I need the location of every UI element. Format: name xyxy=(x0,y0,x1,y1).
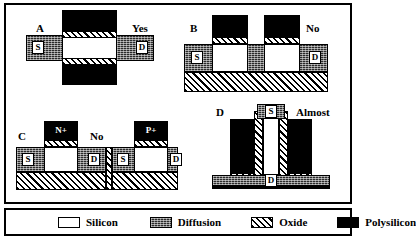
panel-d-polysilicon-right xyxy=(288,119,312,179)
panel-c-letter: C xyxy=(18,131,26,142)
panel-b-diffusion-row xyxy=(184,44,328,72)
panel-d: S D D Almost xyxy=(178,103,354,202)
legend-row: Silicon Diffusion Oxide Polysilicon xyxy=(6,210,350,234)
legend-item-silicon: Silicon xyxy=(58,217,118,228)
legend-frame: Silicon Diffusion Oxide Polysilicon xyxy=(4,208,352,236)
panel-a-letter: A xyxy=(36,23,44,34)
panel-c-gate-oxide-p xyxy=(134,140,168,147)
panel-a-drain-terminal: D xyxy=(136,41,148,54)
panel-c: N+ S D P+ S D C No xyxy=(6,103,178,202)
panel-d-drain-terminal: D xyxy=(265,174,277,187)
panel-b-polysilicon-gate-right xyxy=(264,15,300,37)
panel-b-gate-oxide-right xyxy=(264,37,300,44)
panel-b-letter: B xyxy=(190,23,197,34)
panel-c-silicon-channel-n xyxy=(44,147,78,172)
panel-b-drain-terminal: D xyxy=(309,51,321,64)
panel-c-implant-label-p: P+ xyxy=(134,121,168,140)
panel-d-oxide-sidewall-right xyxy=(279,111,288,183)
legend-label-silicon: Silicon xyxy=(86,217,118,228)
panel-c-source-terminal-n: S xyxy=(22,153,34,166)
panel-b-source-terminal: S xyxy=(191,51,203,64)
panel-b-silicon-channel-right xyxy=(264,44,300,72)
panel-c-silicon-channel-p xyxy=(134,147,168,172)
panel-d-source-terminal: S xyxy=(265,105,277,118)
panel-a-silicon-channel xyxy=(62,37,117,59)
panel-c-source-terminal-p: S xyxy=(117,153,129,166)
panel-b-polysilicon-gate-left xyxy=(212,15,248,37)
panel-a-oxide-bottom xyxy=(62,58,117,65)
panel-d-silicon-channel xyxy=(263,111,279,175)
panel-d-drain-outer-label: D xyxy=(216,107,224,118)
legend-item-oxide: Oxide xyxy=(251,217,307,228)
panel-a: S D A Yes xyxy=(6,5,178,103)
legend-item-polysilicon: Polysilicon xyxy=(337,217,416,228)
panel-b: S D B No xyxy=(178,5,354,103)
panel-c-implant-label-n: N+ xyxy=(44,121,78,140)
panel-d-oxide-sidewall-left xyxy=(254,111,263,183)
panel-d-polysilicon-left xyxy=(230,119,254,179)
silicon-swatch-icon xyxy=(58,217,80,228)
legend-label-oxide: Oxide xyxy=(279,217,307,228)
diffusion-swatch-icon xyxy=(150,217,172,228)
panel-b-substrate-oxide xyxy=(184,72,328,92)
panel-b-gate-oxide-left xyxy=(212,37,248,44)
legend-label-polysilicon: Polysilicon xyxy=(365,217,416,228)
panel-c-verdict: No xyxy=(90,131,103,142)
panel-c-drain-terminal-n: D xyxy=(88,153,100,166)
legend-item-diffusion: Diffusion xyxy=(150,217,221,228)
panel-c-gate-oxide-n xyxy=(44,140,78,147)
diagram-frame: S D A Yes S D B No xyxy=(4,3,352,204)
panel-c-drain-terminal-p: D xyxy=(170,153,182,166)
polysilicon-swatch-icon xyxy=(337,217,359,228)
panel-b-silicon-channel-left xyxy=(212,44,248,72)
panel-c-substrate-oxide-n xyxy=(16,172,106,190)
panel-a-source-terminal: S xyxy=(32,41,44,54)
panel-b-verdict: No xyxy=(306,23,319,34)
legend-label-diffusion: Diffusion xyxy=(178,217,221,228)
panel-c-substrate-oxide-p xyxy=(112,172,178,190)
panel-a-verdict: Yes xyxy=(132,23,148,34)
oxide-swatch-icon xyxy=(251,217,273,228)
panel-d-verdict: Almost xyxy=(296,107,330,118)
